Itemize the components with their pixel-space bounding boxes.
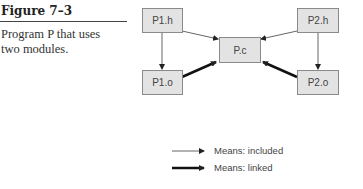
node-p1-h: P1.h xyxy=(142,8,183,33)
legend-linked-label: Means: linked xyxy=(214,162,273,173)
node-p-c: P.c xyxy=(219,37,261,63)
node-p2-h: P2.h xyxy=(297,8,339,33)
legend-included-label: Means: included xyxy=(214,145,283,156)
node-p1-o: P1.o xyxy=(142,70,183,95)
node-p2-o: P2.o xyxy=(297,70,339,95)
edge-p2h-pc xyxy=(261,31,297,39)
edge-p2o-pc xyxy=(263,62,297,77)
edge-p1h-pc xyxy=(182,31,218,39)
edge-p1o-pc xyxy=(182,62,216,77)
